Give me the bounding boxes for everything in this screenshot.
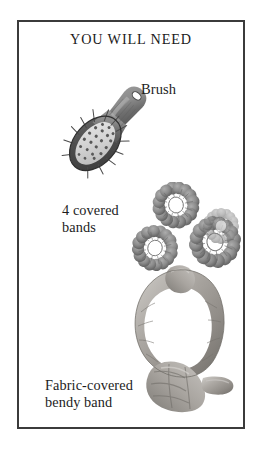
you-will-need-panel: YOU WILL NEED [17,20,245,429]
covered-bands-label: 4 covered bands [62,202,119,237]
page-title: YOU WILL NEED [19,31,243,48]
bendy-band-label: Fabric-covered bendy band [45,377,133,412]
brush-illustration [43,58,183,188]
brush-label: Brush [141,81,176,99]
panel-background: YOU WILL NEED [19,22,243,427]
